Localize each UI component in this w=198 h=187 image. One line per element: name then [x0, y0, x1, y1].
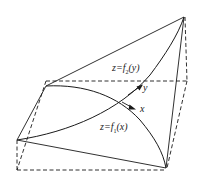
edge-right: [166, 17, 184, 168]
hidden-edge-right-vertical: [185, 17, 187, 81]
hidden-edge-right-lower: [167, 81, 187, 168]
edge-top: [46, 17, 184, 86]
label-surface-f2: z=f2(y): [112, 63, 140, 75]
label-axis-y: y: [143, 83, 147, 93]
arrow-y-icon: [128, 85, 143, 96]
hidden-edge-left-diagonal: [17, 81, 46, 170]
label-surface-f1: z=f1(x): [100, 122, 128, 134]
edge-bottom: [17, 140, 166, 168]
label-axis-x: x: [140, 104, 144, 114]
surface-diagram: [0, 0, 198, 187]
